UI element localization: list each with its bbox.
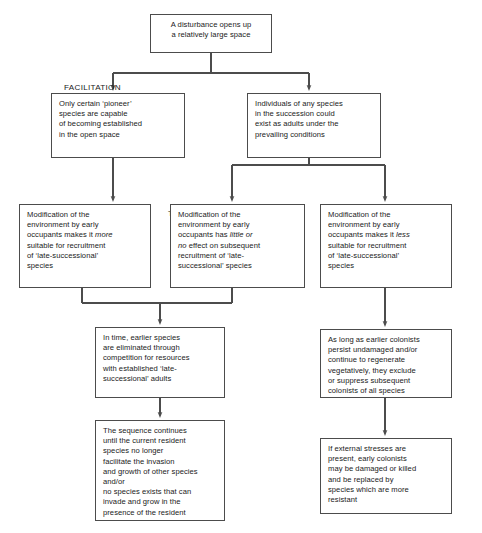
node-text-line: As long as earlier colonists bbox=[328, 335, 444, 345]
node-inhibition-effect: Modification of theenvironment by earlyo… bbox=[320, 204, 452, 288]
node-text-line: environment by early bbox=[178, 220, 297, 230]
node-text-line: suitable for recruitment bbox=[328, 241, 444, 251]
node-text-line: species bbox=[27, 261, 143, 271]
node-text-line: species no longer bbox=[103, 446, 217, 456]
node-in-time: In time, earlier speciesare eliminated t… bbox=[95, 327, 225, 398]
node-text-line: no effect on subsequent bbox=[178, 241, 297, 251]
node-text-line: Modification of the bbox=[178, 210, 297, 220]
node-text-line: with established ‘late- bbox=[103, 364, 217, 374]
emphasis-text: less bbox=[396, 230, 410, 239]
node-text-line: are eliminated through bbox=[103, 343, 217, 353]
node-text-line: environment by early bbox=[27, 220, 143, 230]
node-text-line: species are capable bbox=[59, 109, 177, 119]
node-text-line: prevailing conditions bbox=[255, 130, 373, 140]
node-text-line: a relatively large space bbox=[158, 30, 264, 40]
node-text-line: resistant bbox=[328, 495, 444, 505]
node-text-line: or suppress subsequent bbox=[328, 376, 444, 386]
node-colonists-persist: As long as earlier colonistspersist unda… bbox=[320, 329, 452, 398]
emphasis-text: little or bbox=[230, 230, 253, 239]
branch-label-facilitation: FACILITATION bbox=[64, 83, 121, 92]
flowchart-diagram: FACILITATION TOLERANCE INHIBITION A dist… bbox=[0, 0, 482, 533]
node-text-line: vegetatively, they exclude bbox=[328, 366, 444, 376]
emphasis-text: more bbox=[95, 230, 113, 239]
node-text-line: Modification of the bbox=[27, 210, 143, 220]
node-sequence-continues: The sequence continuesuntil the current … bbox=[95, 420, 225, 521]
node-text-line: facilitate the invasion bbox=[103, 457, 217, 467]
node-text-line: and growth of other species bbox=[103, 467, 217, 477]
node-text-line: and be replaced by bbox=[328, 475, 444, 485]
node-text-line: A disturbance opens up bbox=[158, 20, 264, 30]
node-text-line: species which are more bbox=[328, 485, 444, 495]
node-text-line: no species exists that can bbox=[103, 487, 217, 497]
node-tolerance-effect: Modification of theenvironment by earlyo… bbox=[170, 204, 305, 288]
node-text-line: in the open space bbox=[59, 130, 177, 140]
node-text-line: colonists of all species bbox=[328, 386, 444, 396]
node-text-line: In time, earlier species bbox=[103, 333, 217, 343]
node-text-line: successional’ species bbox=[178, 261, 297, 271]
node-text-line: environment by early bbox=[328, 220, 444, 230]
node-text-line: exist as adults under the bbox=[255, 119, 373, 129]
node-text-line: occupants makes it less bbox=[328, 230, 444, 240]
node-text-line: presence of the resident bbox=[103, 508, 217, 518]
node-text-line: of ‘late-successional’ bbox=[27, 251, 143, 261]
node-text-line: If external stresses are bbox=[328, 444, 444, 454]
node-text-line: recruitment of ‘late- bbox=[178, 251, 297, 261]
node-text-line: may be damaged or killed bbox=[328, 464, 444, 474]
node-facilitation-effect: Modification of theenvironment by earlyo… bbox=[19, 204, 151, 288]
node-text-line: of becoming established bbox=[59, 119, 177, 129]
node-text-line: suitable for recruitment bbox=[27, 241, 143, 251]
node-external-stresses: If external stresses arepresent, early c… bbox=[320, 438, 452, 514]
node-text-line: occupants has little or bbox=[178, 230, 297, 240]
node-text-line: Only certain ‘pioneer’ bbox=[59, 99, 177, 109]
node-text-line: until the current resident bbox=[103, 436, 217, 446]
node-text-line: species bbox=[328, 261, 444, 271]
node-text-line: continue to regenerate bbox=[328, 355, 444, 365]
node-disturbance: A disturbance opens upa relatively large… bbox=[150, 14, 272, 53]
node-text-line: Modification of the bbox=[328, 210, 444, 220]
node-text-line: and/or bbox=[103, 477, 217, 487]
node-text-line: Individuals of any species bbox=[255, 99, 373, 109]
node-text-line: competition for resources bbox=[103, 353, 217, 363]
node-text-line: of ‘late-successional’ bbox=[328, 251, 444, 261]
node-text-line: The sequence continues bbox=[103, 426, 217, 436]
node-text-line: invade and grow in the bbox=[103, 497, 217, 507]
node-text-line: in the succession could bbox=[255, 109, 373, 119]
emphasis-text: no bbox=[178, 241, 187, 250]
node-any-species: Individuals of any speciesin the success… bbox=[247, 93, 381, 158]
node-text-line: occupants makes it more bbox=[27, 230, 143, 240]
node-text-line: persist undamaged and/or bbox=[328, 345, 444, 355]
node-pioneer-species: Only certain ‘pioneer’species are capabl… bbox=[51, 93, 185, 158]
node-text-line: present, early colonists bbox=[328, 454, 444, 464]
node-text-line: successional’ adults bbox=[103, 374, 217, 384]
